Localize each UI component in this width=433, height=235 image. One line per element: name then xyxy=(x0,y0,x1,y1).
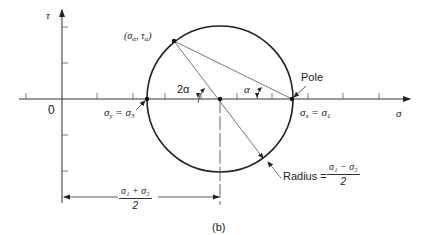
point-pole xyxy=(290,97,294,101)
angle-2alpha-label: 2α xyxy=(177,84,189,95)
pole-leader xyxy=(294,86,306,97)
point-general xyxy=(172,39,176,43)
origin-label: 0 xyxy=(48,104,55,116)
sigma3-label: σy = σ3 xyxy=(104,107,134,120)
radius-leader xyxy=(268,162,281,178)
sigma-axis-label: σ xyxy=(396,108,401,119)
angle-2alpha-marker xyxy=(196,88,205,103)
pole-label: Pole xyxy=(301,72,323,83)
tau-axis-label: τ xyxy=(46,10,50,21)
radius-label: Radius = xyxy=(283,171,327,182)
sigma1-label: σx = σ1 xyxy=(300,107,330,120)
sigma3-leader xyxy=(136,101,145,110)
point-center xyxy=(218,97,222,101)
general-point-label: (σα, τα) xyxy=(124,31,152,43)
radius-fraction: σ₁ − σ₃ 2 xyxy=(327,162,360,187)
tau-axis xyxy=(62,10,68,203)
point-sigma3 xyxy=(145,97,149,101)
mohr-circle-diagram xyxy=(0,0,433,235)
figure-label: (b) xyxy=(212,222,225,233)
angle-alpha-marker xyxy=(255,87,262,99)
angle-alpha-label: α xyxy=(244,84,250,95)
center-fraction: σ₁ + σ₃ 2 xyxy=(119,186,152,211)
